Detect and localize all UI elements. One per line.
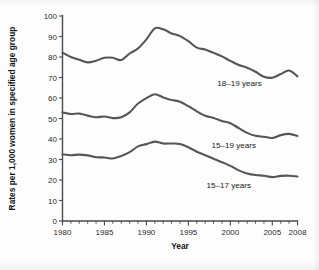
series-label-3: 15–17 years — [206, 181, 251, 190]
x-axis-tick-label: 1985 — [96, 228, 114, 237]
series-label-1: 18–19 years — [217, 79, 262, 88]
x-axis-tick-label: 1990 — [138, 228, 156, 237]
y-axis-tick-label: 90 — [48, 33, 57, 42]
y-axis-tick-label: 0 — [53, 217, 58, 226]
y-axis-tick-label: 50 — [48, 115, 57, 124]
x-axis-tick-label: 2005 — [263, 228, 281, 237]
x-axis-tick-label: 2008 — [289, 228, 307, 237]
y-axis-tick-label: 100 — [44, 12, 58, 21]
y-axis-tick-label: 20 — [48, 176, 57, 185]
x-axis-title: Year — [171, 241, 189, 251]
series-line-3 — [63, 142, 298, 177]
series-line-2 — [63, 94, 298, 138]
y-axis-tick-label: 30 — [48, 156, 57, 165]
y-axis-tick-label: 60 — [48, 94, 57, 103]
x-axis-tick-label: 2000 — [221, 228, 239, 237]
scanned-figure-page: 0102030405060708090100198019851990199520… — [0, 0, 319, 270]
x-axis-tick-label: 1980 — [54, 228, 72, 237]
y-axis-tick-label: 10 — [48, 197, 57, 206]
series-label-2: 15–19 years — [211, 141, 256, 150]
x-axis-tick-label: 1995 — [179, 228, 197, 237]
y-axis-tick-label: 40 — [48, 135, 57, 144]
y-axis-tick-label: 80 — [48, 53, 57, 62]
series-line-1 — [63, 28, 298, 78]
y-axis-title: Rates per 1,000 women in specified age g… — [7, 27, 17, 211]
y-axis-tick-label: 70 — [48, 74, 57, 83]
teen-birth-rate-line-chart: 0102030405060708090100198019851990199520… — [0, 0, 319, 270]
